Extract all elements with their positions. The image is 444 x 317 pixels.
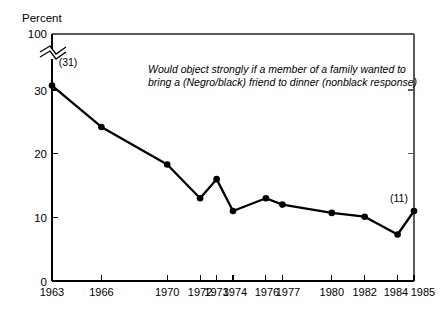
data-point-1972 [197, 195, 204, 202]
x-tick-label-1982: 1982 [352, 286, 376, 298]
y-tick-label-100: 100 [28, 28, 47, 40]
x-tick-label-1974: 1974 [223, 286, 247, 298]
y-tick-label-20: 20 [34, 148, 47, 160]
data-point-1982 [361, 213, 368, 220]
x-tick-label-1963: 1963 [40, 286, 64, 298]
data-point-1976 [263, 195, 270, 202]
x-tick-label-1980: 1980 [320, 286, 344, 298]
y-axis-labels: 100 30 20 10 0 [28, 28, 47, 288]
y-axis-ticks-right [408, 90, 414, 154]
x-tick-label-1985: 1985 [411, 286, 435, 298]
x-tick-label-1977: 1977 [276, 286, 300, 298]
y-axis-ticks [52, 90, 58, 281]
data-point-1985 [411, 208, 418, 215]
x-axis-ticks [52, 275, 414, 281]
data-point-1963 [49, 82, 56, 89]
annotation-line-1: Would object strongly if a member of a f… [148, 63, 406, 75]
y-axis-title: Percent [22, 12, 62, 24]
x-axis-labels: 1963 1966 1970 1972 1973 1974 1976 1977 … [40, 286, 435, 298]
line-chart: 100 30 20 10 0 Percent 1963 1966 [0, 0, 444, 317]
y-tick-label-30: 30 [34, 85, 47, 97]
x-tick-label-1970: 1970 [155, 286, 179, 298]
data-point-1977 [279, 201, 286, 208]
data-point-1973 [213, 176, 220, 183]
x-tick-label-1966: 1966 [89, 286, 113, 298]
point-label-1963: (31) [59, 56, 78, 68]
point-label-1985: (11) [390, 192, 408, 204]
data-point-1966 [98, 124, 105, 131]
chart-container: 100 30 20 10 0 Percent 1963 1966 [0, 0, 444, 317]
data-point-1980 [329, 210, 336, 217]
chart-annotation: Would object strongly if a member of a f… [148, 63, 417, 88]
axis-break-icon-upper [40, 46, 66, 54]
data-point-1974 [230, 208, 237, 215]
annotation-line-2: bring a (Negro/black) friend to dinner (… [148, 76, 417, 88]
data-point-1970 [164, 161, 171, 168]
x-tick-label-1984: 1984 [384, 286, 408, 298]
y-tick-label-10: 10 [34, 212, 47, 224]
data-point-group [49, 82, 418, 238]
data-point-1984 [394, 231, 401, 238]
